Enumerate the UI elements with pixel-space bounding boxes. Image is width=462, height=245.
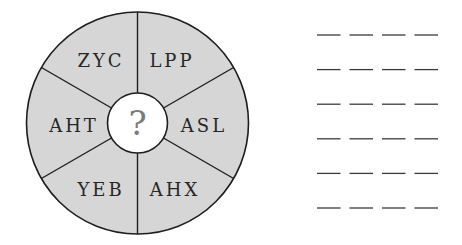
letter-wheel: ? ZYC LPP ASL AHX YEB AHT — [27, 12, 249, 234]
answer-blanks — [317, 35, 438, 208]
puzzle-figure: ? ZYC LPP ASL AHX YEB AHT — [0, 0, 462, 245]
segment-label-left: AHT — [48, 115, 99, 136]
segment-label-lower-right: AHX — [149, 179, 201, 200]
segment-label-lower-left: YEB — [76, 179, 124, 200]
segment-label-right: ASL — [180, 115, 227, 136]
segment-label-upper-right: LPP — [149, 50, 194, 71]
center-question-mark: ? — [128, 103, 146, 143]
segment-label-upper-left: ZYC — [78, 50, 125, 71]
